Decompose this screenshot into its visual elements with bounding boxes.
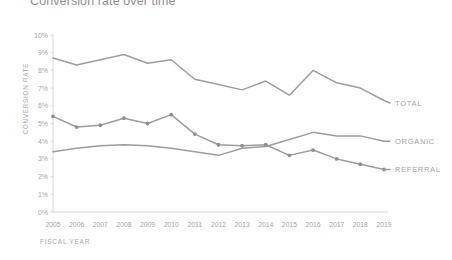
series-label-organic: ORGANIC (395, 137, 435, 146)
data-point-referral (75, 125, 79, 129)
series-label-total: TOTAL (395, 99, 422, 108)
data-point-referral (311, 148, 315, 152)
series-label-referral: REFERRAL (395, 165, 441, 174)
data-point-referral (288, 153, 292, 157)
series-layer (51, 54, 390, 171)
series-line-referral (53, 115, 384, 170)
plot-area (0, 0, 452, 260)
series-line-total (53, 54, 384, 100)
series-leader-total (384, 100, 390, 103)
data-point-referral (264, 143, 268, 147)
data-point-referral (51, 115, 55, 119)
axis-lines (53, 35, 388, 212)
data-point-referral (358, 162, 362, 166)
data-point-referral (98, 123, 102, 127)
conversion-rate-chart: Conversion rate over time CONVERSION RAT… (0, 0, 452, 260)
data-point-referral (217, 143, 221, 147)
data-point-referral (169, 113, 173, 117)
data-point-referral (122, 116, 126, 120)
data-point-referral (146, 122, 150, 126)
data-point-referral (193, 132, 197, 136)
data-point-referral (240, 144, 244, 148)
data-point-referral (335, 157, 339, 161)
